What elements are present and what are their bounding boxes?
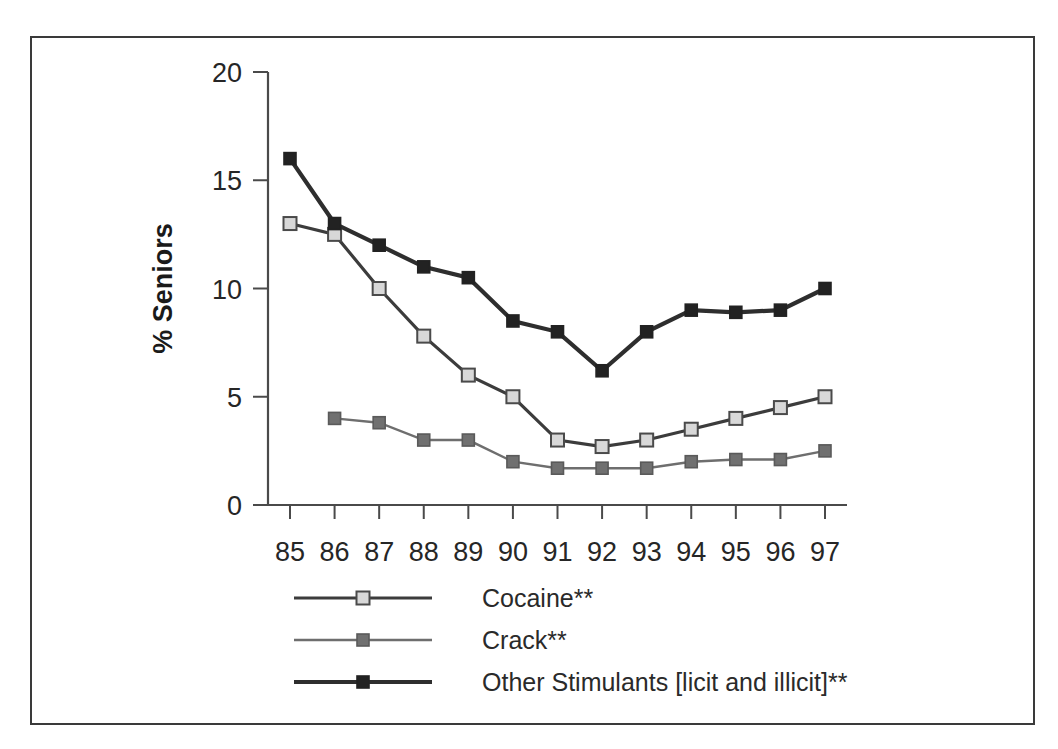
data-point-cocaine xyxy=(685,423,698,436)
x-axis-tick-label: 87 xyxy=(364,537,394,567)
data-point-crack xyxy=(418,434,430,446)
x-axis-tick-label: 89 xyxy=(453,537,483,567)
data-point-crack xyxy=(819,445,831,457)
series-line-other-stimulants xyxy=(290,159,825,371)
data-point-cocaine xyxy=(551,434,564,447)
legend-entry[interactable]: Cocaine** xyxy=(294,584,593,612)
data-point-cocaine xyxy=(284,217,297,230)
y-axis-tick-label: 10 xyxy=(212,275,242,305)
legend-label: Crack** xyxy=(482,626,567,654)
data-point-crack xyxy=(552,462,564,474)
data-point-crack xyxy=(329,412,341,424)
data-point-other-stimulants xyxy=(552,326,564,338)
legend-marker-swatch xyxy=(357,676,369,688)
data-point-crack xyxy=(462,434,474,446)
data-point-other-stimulants xyxy=(774,304,786,316)
data-point-other-stimulants xyxy=(373,239,385,251)
data-point-crack xyxy=(596,462,608,474)
x-axis-tick-label: 96 xyxy=(765,537,795,567)
y-axis-tick-label: 5 xyxy=(227,383,242,413)
x-axis-tick-label: 95 xyxy=(721,537,751,567)
data-point-other-stimulants xyxy=(641,326,653,338)
data-point-cocaine xyxy=(774,401,787,414)
data-point-cocaine xyxy=(417,330,430,343)
data-point-other-stimulants xyxy=(596,365,608,377)
data-point-cocaine xyxy=(729,412,742,425)
data-point-cocaine xyxy=(506,390,519,403)
data-point-other-stimulants xyxy=(284,153,296,165)
data-point-other-stimulants xyxy=(329,218,341,230)
x-axis-tick-label: 94 xyxy=(676,537,706,567)
legend-entry[interactable]: Crack** xyxy=(294,626,567,654)
x-axis-tick-label: 85 xyxy=(275,537,305,567)
x-axis-tick-label: 91 xyxy=(542,537,572,567)
data-point-crack xyxy=(730,454,742,466)
y-axis-tick-label: 0 xyxy=(227,491,242,521)
legend-marker-swatch xyxy=(357,634,369,646)
data-point-other-stimulants xyxy=(462,272,474,284)
legend-entry[interactable]: Other Stimulants [licit and illicit]** xyxy=(294,668,848,696)
x-axis-tick-label: 86 xyxy=(320,537,350,567)
x-axis-tick-label: 90 xyxy=(498,537,528,567)
data-point-crack xyxy=(685,456,697,468)
y-axis-label: % Seniors xyxy=(148,223,178,354)
x-axis-tick-label: 97 xyxy=(810,537,840,567)
data-point-cocaine xyxy=(640,434,653,447)
data-point-cocaine xyxy=(373,282,386,295)
data-point-other-stimulants xyxy=(730,306,742,318)
data-point-other-stimulants xyxy=(507,315,519,327)
data-point-other-stimulants xyxy=(819,283,831,295)
legend-label: Other Stimulants [licit and illicit]** xyxy=(482,668,848,696)
data-point-other-stimulants xyxy=(685,304,697,316)
chart-area: 05101520% Seniors85868788899091929394959… xyxy=(32,38,1037,727)
y-axis-tick-label: 20 xyxy=(212,58,242,88)
data-point-cocaine xyxy=(462,369,475,382)
legend-label: Cocaine** xyxy=(482,584,593,612)
data-point-cocaine xyxy=(596,440,609,453)
data-point-crack xyxy=(641,462,653,474)
y-axis-tick-label: 15 xyxy=(212,166,242,196)
figure-page: 05101520% Seniors85868788899091929394959… xyxy=(0,0,1058,749)
data-point-crack xyxy=(373,417,385,429)
legend-marker-swatch xyxy=(357,592,370,605)
figure-frame: 05101520% Seniors85868788899091929394959… xyxy=(30,36,1035,725)
line-chart: 05101520% Seniors85868788899091929394959… xyxy=(32,38,1037,727)
x-axis-tick-label: 88 xyxy=(409,537,439,567)
data-point-crack xyxy=(507,456,519,468)
x-axis-tick-label: 92 xyxy=(587,537,617,567)
data-point-other-stimulants xyxy=(418,261,430,273)
data-point-crack xyxy=(774,454,786,466)
data-point-cocaine xyxy=(819,390,832,403)
x-axis-tick-label: 93 xyxy=(632,537,662,567)
